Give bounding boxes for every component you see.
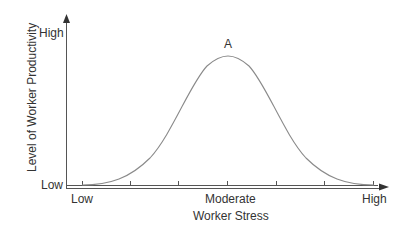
x-low-label: Low [71,193,93,205]
x-axis-title: Worker Stress [193,210,269,222]
y-low-label: Low [41,179,63,191]
peak-annotation: A [224,38,232,50]
y-axis-title: Level of Worker Productivity [26,23,38,172]
x-high-label: High [362,193,387,205]
x-axis-arrow-icon [379,184,389,191]
x-axis-ticks [83,181,374,185]
y-high-label: High [39,27,64,39]
y-axis-arrow-icon [63,14,70,23]
x-moderate-label: Moderate [205,193,256,205]
productivity-curve [82,56,374,185]
